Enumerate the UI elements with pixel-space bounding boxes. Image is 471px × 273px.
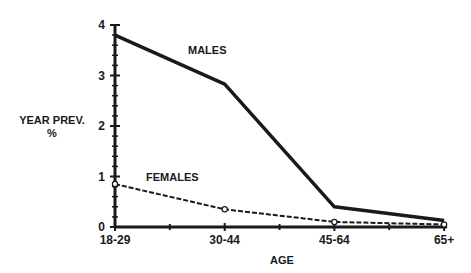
line-chart: 01234 18-2930-4445-6465+ YEAR PREV. % AG… [0,0,471,273]
x-tick-label: 45-64 [319,233,350,247]
data-point-marker [332,219,337,224]
series-layer [112,35,446,227]
y-tick-label: 0 [98,220,105,234]
series-label-males: MALES [188,44,227,56]
series-label-females: FEMALES [146,171,199,183]
y-tick-label: 1 [98,170,105,184]
y-axis-label: YEAR PREV. [19,114,85,126]
x-tick-label: 65+ [434,233,454,247]
x-tick-label: 18-29 [100,233,131,247]
y-axis-unit-label: % [47,127,57,139]
y-tick-label: 3 [98,69,105,83]
series-line-males [115,35,444,220]
x-axis-label: AGE [270,254,294,266]
x-tick-label: 30-44 [209,233,240,247]
y-tick-label: 2 [98,119,105,133]
data-point-marker [112,181,117,186]
y-axis: 01234 [98,18,120,234]
data-point-marker [222,207,227,212]
x-axis: 18-2930-4445-6465+ [100,223,455,247]
data-point-marker [442,222,447,227]
y-tick-label: 4 [98,18,105,32]
series-line-females [115,184,444,224]
